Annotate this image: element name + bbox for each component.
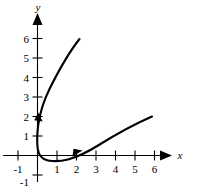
y-tick-label-4: 4 xyxy=(24,72,30,84)
x-tick-label-6: 6 xyxy=(152,163,158,175)
y-tick-label--1: -1 xyxy=(20,176,29,188)
x-axis-arrow-icon xyxy=(160,151,172,161)
x-tick-label-4: 4 xyxy=(113,163,119,175)
parabola-curve xyxy=(37,39,152,161)
y-axis-label: y xyxy=(35,1,41,13)
y-tick-label-2: 2 xyxy=(24,111,30,123)
x-axis-label: x xyxy=(177,149,183,161)
y-tick-label-3: 3 xyxy=(24,91,30,103)
y-tick-label-1: 1 xyxy=(24,130,30,142)
graph-figure: -1 1 2 3 4 5 6 -1 1 2 3 4 5 6 x y xyxy=(0,0,198,193)
coordinate-plot: -1 1 2 3 4 5 6 -1 1 2 3 4 5 6 x y xyxy=(0,0,198,193)
x-tick-label-1: 1 xyxy=(54,163,60,175)
x-tick-label-3: 3 xyxy=(93,163,99,175)
x-tick-label-5: 5 xyxy=(132,163,138,175)
y-tick-label-5: 5 xyxy=(24,52,30,64)
x-tick-label-2: 2 xyxy=(74,163,80,175)
y-axis-arrow-icon xyxy=(33,13,43,25)
x-tick-label--1: -1 xyxy=(13,163,22,175)
y-tick-label-6: 6 xyxy=(24,33,30,45)
